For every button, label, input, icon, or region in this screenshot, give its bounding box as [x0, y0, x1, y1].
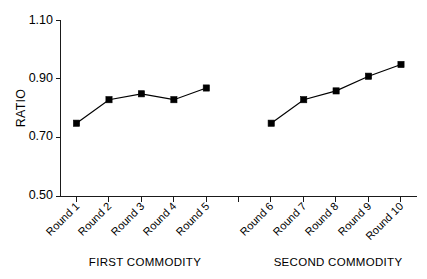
data-point-marker: [333, 88, 339, 94]
y-tick-label-2: 0.70: [29, 129, 53, 143]
data-point-marker: [138, 91, 144, 97]
group-label-second-commodity: SECOND COMMODITY: [274, 256, 403, 268]
data-point-marker: [365, 73, 371, 79]
chart-canvas: 1.10 0.90 0.70 0.50 RATIO Round 1 Round …: [0, 0, 427, 279]
data-point-marker: [106, 97, 112, 103]
data-point-marker: [398, 61, 404, 67]
group-label-first-commodity: FIRST COMMODITY: [89, 256, 201, 268]
y-axis-title: RATIO: [14, 89, 28, 127]
data-point-marker: [301, 97, 307, 103]
data-point-marker: [73, 120, 79, 126]
y-tick-label-1: 0.90: [29, 71, 53, 85]
chart-background: [0, 0, 427, 279]
data-point-marker: [171, 97, 177, 103]
data-point-marker: [268, 120, 274, 126]
y-tick-label-0: 1.10: [29, 13, 53, 27]
y-tick-label-3: 0.50: [29, 188, 53, 202]
data-point-marker: [203, 85, 209, 91]
ratio-line-chart: 1.10 0.90 0.70 0.50 RATIO Round 1 Round …: [0, 0, 427, 279]
